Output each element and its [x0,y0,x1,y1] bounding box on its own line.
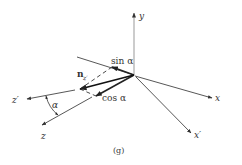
x-prime-axis-label: x′ [194,130,201,140]
dashed-cos-projection [80,89,96,96]
alpha-label: α [52,100,58,110]
x-prime-axis [136,77,191,133]
sin-alpha-label: sin α [111,56,133,66]
figure-caption: (g) [113,146,124,155]
z-prime-axis-label: z′ [11,95,19,105]
x-axis [135,76,212,98]
cos-alpha-label: cos α [102,93,126,103]
y-axis-label: y [138,11,145,21]
sin-component-arrow [112,67,134,75]
vector-decomposition-diagram: y x x′ z′ z α sin α cos α n z′ (g) [0,0,242,165]
x-axis-label: x [215,93,220,103]
z-prime-axis [27,90,75,99]
n-z-prime-subscript: z′ [82,74,88,81]
n-z-prime-vector [80,75,134,89]
diagram-canvas: y x x′ z′ z α sin α cos α n z′ (g) [0,0,242,165]
z-axis-label: z [40,131,46,141]
z-axis [42,97,92,125]
